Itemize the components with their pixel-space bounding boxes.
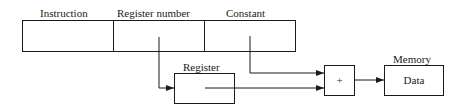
memory-data-text: Data xyxy=(385,74,443,86)
plus-symbol: + xyxy=(325,74,354,86)
field-label-instruction: Instruction xyxy=(40,7,88,19)
constant-field-box xyxy=(204,20,296,52)
field-label-constant: Constant xyxy=(226,7,265,19)
adder-box: + xyxy=(324,65,355,96)
register-label: Register xyxy=(183,61,220,73)
instruction-field-box xyxy=(22,20,114,52)
memory-label: Memory xyxy=(393,53,431,65)
field-label-register-number: Register number xyxy=(117,7,190,19)
register-box xyxy=(174,73,235,104)
register-number-field-box xyxy=(113,20,205,52)
memory-box: Data xyxy=(384,65,444,96)
